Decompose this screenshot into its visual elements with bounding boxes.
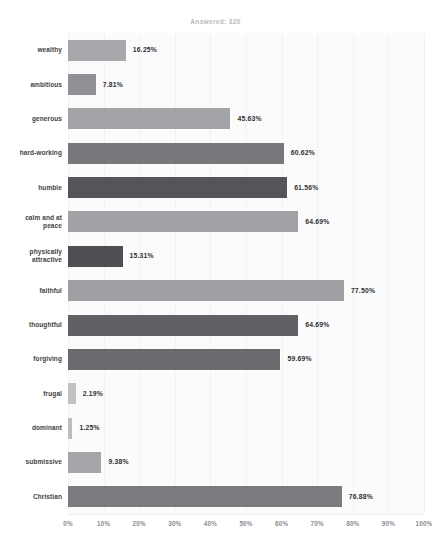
x-axis-tick-label: 20% [133,520,146,527]
x-axis-tick-label: 100% [416,520,432,527]
bar-rows: wealthy16.25%ambitious7.81%generous45.63… [0,33,431,514]
x-axis-tick-label: 70% [311,520,324,527]
bar[interactable] [68,246,123,267]
bar[interactable] [68,349,280,370]
category-label: frugal [6,390,62,398]
category-label: thoughtful [6,321,62,329]
bar-value-label: 64.69% [305,218,329,225]
bar-row[interactable]: submissive9.38% [0,445,431,479]
bar-row[interactable]: Christian76.88% [0,480,431,514]
bar[interactable] [68,211,298,232]
bar-value-label: 16.25% [133,46,157,53]
bar-row[interactable]: hard-working60.62% [0,136,431,170]
bar-value-label: 45.63% [237,115,261,122]
bar-row[interactable]: forgiving59.69% [0,342,431,376]
bar-row[interactable]: thoughtful64.69% [0,308,431,342]
x-axis-tick-label: 10% [97,520,110,527]
bar-row[interactable]: frugal2.19% [0,377,431,411]
bar-row[interactable]: ambitious7.81% [0,67,431,101]
bar-value-label: 15.31% [130,252,154,259]
category-label: generous [6,115,62,123]
x-axis-tick-label: 60% [275,520,288,527]
bar[interactable] [68,177,287,198]
bar[interactable] [68,452,101,473]
bar-row[interactable]: physically attractive15.31% [0,239,431,273]
x-axis-tick-label: 50% [239,520,252,527]
bar-row[interactable]: wealthy16.25% [0,33,431,67]
category-label: physically attractive [6,248,62,264]
bar[interactable] [68,486,342,507]
bar[interactable] [68,143,284,164]
bar[interactable] [68,74,96,95]
bar-row[interactable]: generous45.63% [0,102,431,136]
bar[interactable] [68,280,344,301]
x-axis-tick-label: 30% [168,520,181,527]
answered-count-label: Answered: 320 [0,18,431,25]
category-label: faithful [6,287,62,295]
bar-value-label: 1.25% [79,424,99,431]
category-label: forgiving [6,355,62,363]
bar[interactable] [68,418,72,439]
bar-value-label: 9.38% [108,458,128,465]
category-label: calm and at peace [6,214,62,230]
bar-value-label: 76.88% [349,493,373,500]
bar[interactable] [68,315,298,336]
bar-value-label: 61.56% [294,184,318,191]
bar-value-label: 77.50% [351,287,375,294]
x-axis-tick-label: 90% [382,520,395,527]
category-label: humble [6,184,62,192]
chart-title-strip [0,0,431,12]
category-label: Christian [6,493,62,501]
bar-value-label: 60.62% [291,149,315,156]
bar[interactable] [68,383,76,404]
bar-row[interactable]: dominant1.25% [0,411,431,445]
bar-row[interactable]: faithful77.50% [0,274,431,308]
bar-value-label: 64.69% [305,321,329,328]
bar[interactable] [68,40,126,61]
category-label: submissive [6,458,62,466]
category-label: dominant [6,424,62,432]
x-axis-line [68,514,424,515]
bar[interactable] [68,108,230,129]
bar-row[interactable]: calm and at peace64.69% [0,205,431,239]
bar-value-label: 59.69% [287,355,311,362]
bar-row[interactable]: humble61.56% [0,170,431,204]
x-axis-tick-label: 80% [346,520,359,527]
category-label: hard-working [6,149,62,157]
category-label: ambitious [6,81,62,89]
category-label: wealthy [6,46,62,54]
x-axis-tick-label: 40% [204,520,217,527]
bar-value-label: 7.81% [103,81,123,88]
x-axis-tick-label: 0% [63,520,73,527]
x-axis: 0%10%20%30%40%50%60%70%80%90%100% [68,516,424,532]
bar-value-label: 2.19% [83,390,103,397]
